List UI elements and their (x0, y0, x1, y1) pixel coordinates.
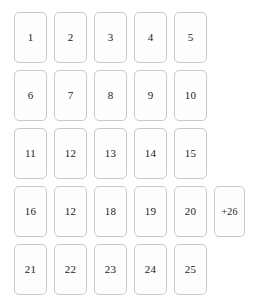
card-item[interactable]: 9 (134, 70, 167, 121)
card-item[interactable]: 19 (134, 186, 167, 237)
card-item[interactable]: 11 (14, 128, 47, 179)
card-item[interactable]: 25 (174, 244, 207, 295)
card-item[interactable]: 12 (54, 128, 87, 179)
card-item[interactable]: 23 (94, 244, 127, 295)
card-item[interactable]: 14 (134, 128, 167, 179)
card-item[interactable]: 4 (134, 12, 167, 63)
card-row: 16 12 18 19 20 +26 (14, 186, 254, 237)
card-item[interactable]: 5 (174, 12, 207, 63)
card-item[interactable]: 15 (174, 128, 207, 179)
card-item[interactable]: 3 (94, 12, 127, 63)
card-item[interactable]: 1 (14, 12, 47, 63)
card-item[interactable]: 18 (94, 186, 127, 237)
card-item[interactable]: 6 (14, 70, 47, 121)
card-item[interactable]: 24 (134, 244, 167, 295)
card-row: 11 12 13 14 15 (14, 128, 254, 179)
card-item[interactable]: 16 (14, 186, 47, 237)
card-row: 1 2 3 4 5 (14, 12, 254, 63)
card-item[interactable]: 20 (174, 186, 207, 237)
card-item[interactable]: 8 (94, 70, 127, 121)
card-row: 6 7 8 9 10 (14, 70, 254, 121)
card-item[interactable]: 21 (14, 244, 47, 295)
card-item[interactable]: 10 (174, 70, 207, 121)
card-item[interactable]: 13 (94, 128, 127, 179)
overflow-count-card[interactable]: +26 (214, 186, 245, 237)
card-row: 21 22 23 24 25 (14, 244, 254, 295)
card-item[interactable]: 12 (54, 186, 87, 237)
card-item[interactable]: 22 (54, 244, 87, 295)
card-grid: 1 2 3 4 5 6 7 8 9 10 11 12 13 14 15 16 1… (14, 12, 254, 302)
card-item[interactable]: 7 (54, 70, 87, 121)
card-item[interactable]: 2 (54, 12, 87, 63)
